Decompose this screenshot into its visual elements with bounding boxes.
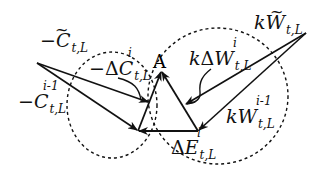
delta-w-label: kΔWt,L i — [189, 49, 251, 68]
delta-e-label: ΔEt,L i — [171, 138, 216, 157]
w-tilde-label: kWt,L ~ — [254, 13, 303, 32]
delta-c-label: −ΔCt,L i — [89, 59, 151, 78]
delta-w-leader — [187, 69, 211, 104]
vector-diagram: A −Ct,L ~ −Ct,L i-1 −ΔCt,L i kWt,L ~ kΔW… — [0, 0, 323, 175]
c-prev-label: −Ct,L i-1 — [18, 92, 66, 111]
c-tilde-label: −Ct,L ~ — [40, 31, 88, 50]
vertex-a-label: A — [153, 51, 166, 72]
triangle-right-edge — [162, 72, 198, 131]
w-prev-label: kWt,L i-1 — [226, 107, 275, 126]
